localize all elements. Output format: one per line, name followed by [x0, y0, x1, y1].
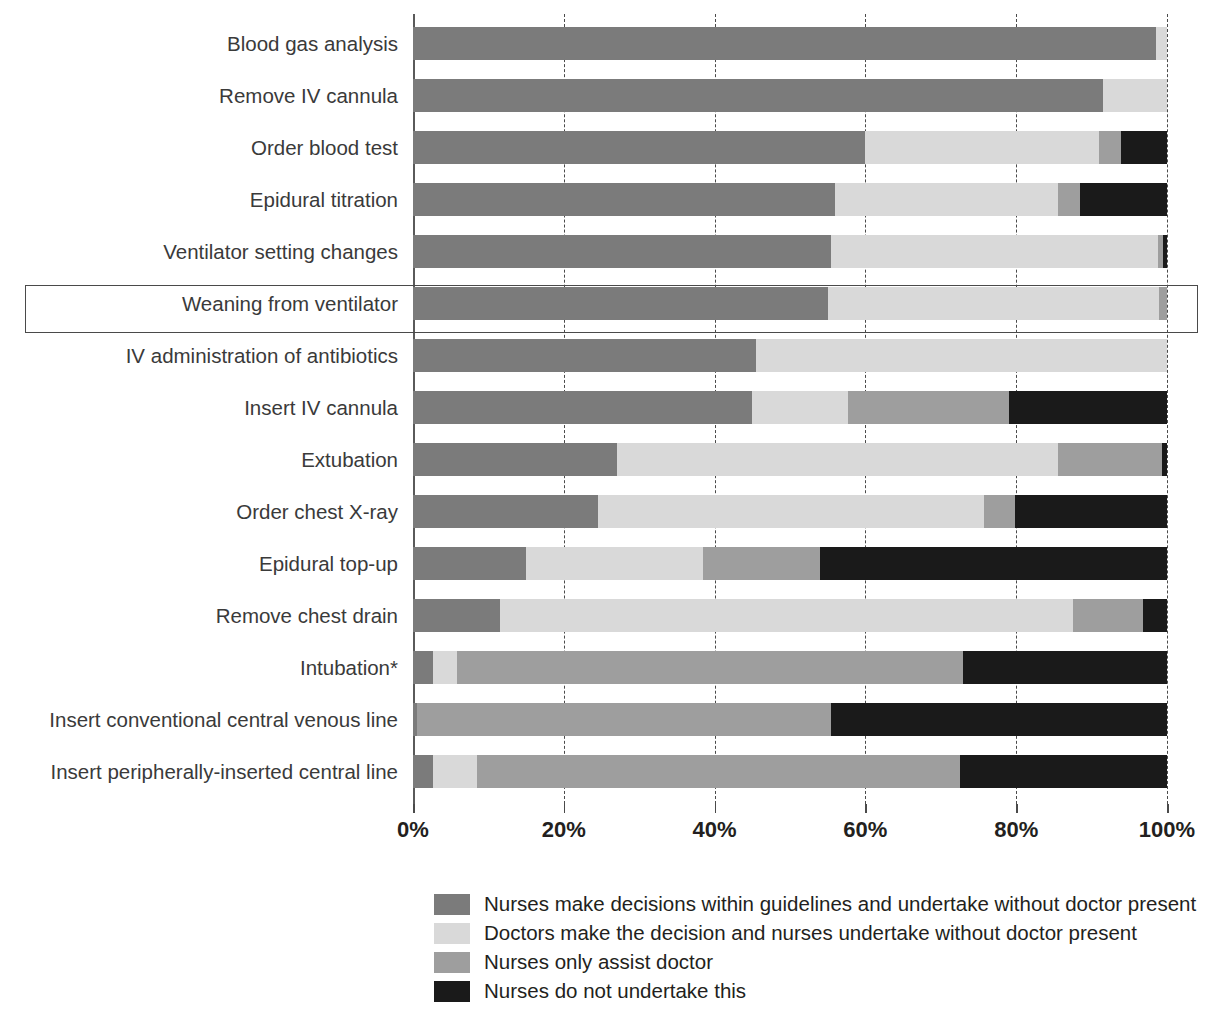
category-label: Epidural top-up [0, 547, 398, 580]
stacked-bar [413, 703, 1167, 736]
stacked-bar [413, 547, 1167, 580]
bar-segment [1159, 287, 1167, 320]
category-label: Order chest X-ray [0, 495, 398, 528]
bar-segment [1099, 131, 1121, 164]
bar-segment [413, 391, 752, 424]
legend-item: Doctors make the decision and nurses und… [434, 919, 1194, 948]
stacked-bar [413, 131, 1167, 164]
bar-segment [984, 495, 1015, 528]
bar-segment [413, 131, 865, 164]
bar-segment [752, 391, 848, 424]
category-label: Blood gas analysis [0, 27, 398, 60]
bar-segment [960, 755, 1167, 788]
bar-segment [1058, 443, 1163, 476]
bar-segment [413, 547, 526, 580]
legend-item: Nurses make decisions within guidelines … [434, 890, 1194, 919]
bar-segment [413, 235, 831, 268]
chart-legend: Nurses make decisions within guidelines … [434, 890, 1194, 1006]
bar-segment [1163, 235, 1167, 268]
bar-segment [413, 443, 617, 476]
bar-segment [413, 27, 1156, 60]
bar-segment [1156, 27, 1167, 60]
bar-segment [617, 443, 1058, 476]
bar-segment [433, 755, 477, 788]
bar-segment [526, 547, 703, 580]
chart-row: Blood gas analysis [0, 27, 1218, 79]
bar-segment [598, 495, 984, 528]
category-label: Epidural titration [0, 183, 398, 216]
chart-row: Remove chest drain [0, 599, 1218, 651]
chart-row: Ventilator setting changes [0, 235, 1218, 287]
bar-segment [413, 651, 433, 684]
bar-segment [703, 547, 820, 580]
bar-segment [756, 339, 1167, 372]
category-label: Insert peripherally-inserted central lin… [0, 755, 398, 788]
category-label: Intubation* [0, 651, 398, 684]
bar-segment [828, 287, 1160, 320]
bar-segment [477, 755, 960, 788]
bar-segment [835, 183, 1057, 216]
legend-label: Doctors make the decision and nurses und… [484, 923, 1137, 944]
legend-label: Nurses do not undertake this [484, 981, 746, 1002]
legend-label: Nurses only assist doctor [484, 952, 713, 973]
stacked-bar [413, 755, 1167, 788]
x-axis-labels: 0%20%40%60%80%100% [0, 817, 1218, 847]
bar-segment [848, 391, 1009, 424]
bar-segment [1143, 599, 1167, 632]
chart-row: Order blood test [0, 131, 1218, 183]
stacked-bar-chart: Blood gas analysisRemove IV cannulaOrder… [0, 0, 1218, 1036]
stacked-bar [413, 27, 1167, 60]
chart-row: Intubation* [0, 651, 1218, 703]
legend-swatch [434, 952, 470, 973]
stacked-bar [413, 443, 1167, 476]
bar-segment [831, 703, 1167, 736]
legend-label: Nurses make decisions within guidelines … [484, 894, 1196, 915]
legend-swatch [434, 894, 470, 915]
x-tick-label: 100% [1139, 817, 1195, 843]
stacked-bar [413, 79, 1167, 112]
bar-segment [413, 79, 1103, 112]
chart-row: Order chest X-ray [0, 495, 1218, 547]
chart-row: Extubation [0, 443, 1218, 495]
bar-segment [457, 651, 964, 684]
bar-segment [413, 183, 835, 216]
chart-row: Weaning from ventilator [0, 287, 1218, 339]
stacked-bar [413, 651, 1167, 684]
chart-row: Insert conventional central venous line [0, 703, 1218, 755]
category-label: Ventilator setting changes [0, 235, 398, 268]
bar-segment [417, 703, 832, 736]
bar-segment [1080, 183, 1167, 216]
bar-segment [1073, 599, 1143, 632]
chart-row: IV administration of antibiotics [0, 339, 1218, 391]
x-tick-label: 60% [843, 817, 887, 843]
bar-segment [433, 651, 456, 684]
x-tick-label: 20% [542, 817, 586, 843]
stacked-bar [413, 391, 1167, 424]
bar-segment [963, 651, 1167, 684]
category-label: Insert IV cannula [0, 391, 398, 424]
category-label: Order blood test [0, 131, 398, 164]
chart-row: Remove IV cannula [0, 79, 1218, 131]
chart-row: Insert peripherally-inserted central lin… [0, 755, 1218, 807]
chart-row: Epidural top-up [0, 547, 1218, 599]
bar-segment [865, 131, 1099, 164]
bar-segment [820, 547, 1167, 580]
legend-item: Nurses do not undertake this [434, 977, 1194, 1006]
stacked-bar [413, 599, 1167, 632]
chart-row: Insert IV cannula [0, 391, 1218, 443]
bar-segment [1121, 131, 1167, 164]
x-tick-label: 80% [994, 817, 1038, 843]
category-label: Extubation [0, 443, 398, 476]
x-tick-label: 0% [397, 817, 429, 843]
bar-segment [413, 339, 756, 372]
category-label: Insert conventional central venous line [0, 703, 398, 736]
bar-segment [413, 755, 433, 788]
category-label: Remove IV cannula [0, 79, 398, 112]
x-tick-label: 40% [693, 817, 737, 843]
bar-segment [1162, 443, 1167, 476]
bar-segment [1015, 495, 1167, 528]
stacked-bar [413, 235, 1167, 268]
category-label: Remove chest drain [0, 599, 398, 632]
bar-segment [1058, 183, 1081, 216]
legend-swatch [434, 923, 470, 944]
